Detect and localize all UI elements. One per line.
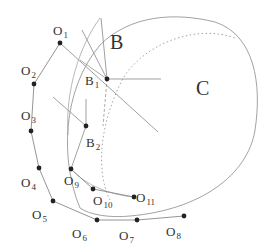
- point-b1: [105, 77, 110, 82]
- b2-to-o9: [71, 126, 86, 169]
- chain-segment: [31, 131, 39, 168]
- region-label-c: C: [196, 77, 209, 99]
- label-o4: O4: [21, 175, 36, 192]
- label-b1: B1: [85, 73, 99, 90]
- label-o8: O8: [166, 224, 181, 241]
- point-o4: [37, 166, 42, 171]
- label-o11: O11: [136, 190, 155, 207]
- label-o7: O7: [119, 228, 134, 245]
- b2-line-diagonal: [53, 97, 86, 126]
- region-b-left-arc: [68, 18, 100, 135]
- b1-line-down: [103, 79, 107, 126]
- chain-segment: [137, 216, 184, 220]
- label-o9: O9: [64, 173, 79, 190]
- label-o2: O2: [21, 63, 36, 80]
- point-o10: [91, 187, 96, 192]
- outer-chain: [31, 43, 184, 220]
- label-o10: O10: [93, 193, 113, 210]
- label-b2: B2: [86, 135, 100, 152]
- point-o1: [58, 41, 63, 46]
- label-o5: O5: [32, 207, 47, 224]
- chain-segment: [34, 43, 60, 84]
- label-o1: O1: [53, 23, 68, 40]
- label-o3: O3: [21, 108, 36, 125]
- point-o9: [69, 167, 74, 172]
- point-o8: [182, 214, 187, 219]
- point-o3: [29, 129, 34, 134]
- region-b-boundary: [102, 33, 235, 200]
- inner-chain: [71, 169, 134, 197]
- region-label-b: B: [110, 31, 123, 53]
- point-o7: [135, 218, 140, 223]
- point-o6: [95, 218, 100, 223]
- diagram-canvas: O1O2O3O4O5O6O7O8O9O10O11B1B2 BC: [0, 0, 274, 252]
- point-o2: [32, 82, 37, 87]
- label-o6: O6: [72, 226, 87, 243]
- inner-flow-arc: [71, 169, 134, 197]
- point-o5: [51, 199, 56, 204]
- points: [29, 41, 187, 223]
- chain-segment: [39, 168, 53, 201]
- region-labels: BC: [110, 31, 209, 99]
- chain-segment: [53, 201, 97, 220]
- point-b2: [84, 124, 89, 129]
